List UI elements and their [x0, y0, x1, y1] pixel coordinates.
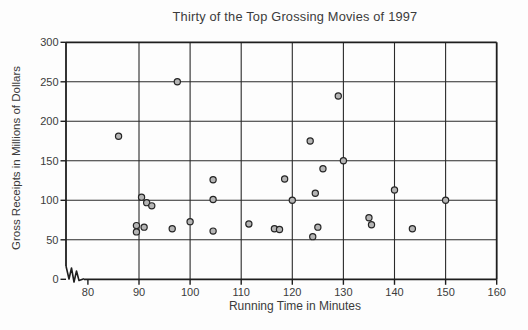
data-point [282, 176, 288, 182]
data-point [210, 228, 216, 234]
data-point [115, 133, 121, 139]
data-point [320, 166, 326, 172]
data-point [138, 194, 144, 200]
data-point [169, 226, 175, 232]
data-point [340, 158, 346, 164]
y-tick-label: 200 [40, 115, 58, 127]
data-point [187, 219, 193, 225]
x-tick-label: 140 [385, 286, 403, 298]
y-tick-label: 100 [40, 194, 58, 206]
data-point [149, 203, 155, 209]
data-point [443, 197, 449, 203]
data-point [133, 229, 139, 235]
plot-area: 8090100110120130140150160050100150200250… [0, 0, 528, 330]
x-axis-label: Running Time in Minutes [90, 299, 500, 313]
y-tick-label: 0 [52, 273, 58, 285]
data-point [315, 224, 321, 230]
y-tick-label: 150 [40, 155, 58, 167]
data-point [310, 234, 316, 240]
data-point [368, 222, 374, 228]
data-point [409, 226, 415, 232]
data-point [210, 196, 216, 202]
data-point [289, 197, 295, 203]
x-tick-label: 120 [283, 286, 301, 298]
data-point [133, 222, 139, 228]
x-tick-label: 90 [133, 286, 145, 298]
axis-break [66, 266, 84, 282]
data-point [210, 177, 216, 183]
y-tick-label: 50 [46, 234, 58, 246]
x-tick-label: 100 [181, 286, 199, 298]
x-tick-label: 130 [334, 286, 352, 298]
data-point [335, 93, 341, 99]
y-tick-label: 300 [40, 36, 58, 48]
data-point [141, 224, 147, 230]
data-point [246, 221, 252, 227]
x-tick-label: 150 [436, 286, 454, 298]
scatter-plot: Thirty of the Top Grossing Movies of 199… [0, 0, 528, 330]
data-point [391, 187, 397, 193]
x-tick-label: 110 [232, 286, 250, 298]
data-point [366, 215, 372, 221]
x-tick-label: 80 [82, 286, 94, 298]
data-point [312, 190, 318, 196]
x-tick-label: 160 [488, 286, 506, 298]
data-point [276, 226, 282, 232]
y-tick-label: 250 [40, 76, 58, 88]
data-point [307, 138, 313, 144]
data-point [174, 79, 180, 85]
